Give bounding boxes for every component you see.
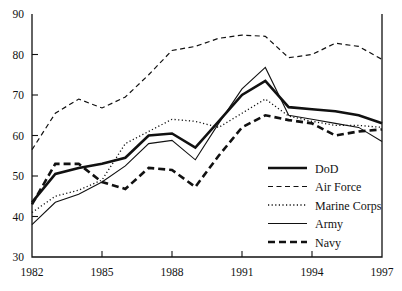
line-chart: 30405060708090 198219851988199119941997 … [0,0,402,291]
y-axis-tick-labels: 30405060708090 [13,8,25,263]
x-tick-label: 1982 [21,266,44,278]
legend-label-navy: Navy [315,236,341,250]
legend-label-air-force: Air Force [315,180,361,194]
y-tick-label: 50 [13,170,25,182]
x-tick-label: 1994 [301,266,324,278]
y-tick-label: 70 [13,89,25,101]
chart-legend: DoDAir ForceMarine CorpsArmyNavy [268,162,382,250]
y-tick-label: 90 [13,8,25,20]
x-axis-tick-labels: 198219851988199119941997 [21,266,394,278]
chart-figure: 30405060708090 198219851988199119941997 … [0,0,402,291]
y-tick-label: 30 [13,251,25,263]
x-tick-label: 1991 [231,266,254,278]
y-tick-label: 80 [13,49,25,61]
legend-label-army: Army [315,217,343,231]
y-axis-ticks [32,55,38,217]
data-series-group [32,35,382,225]
series-line-marine-corps [32,99,382,212]
y-tick-label: 40 [13,211,25,223]
x-tick-label: 1985 [91,266,114,278]
x-tick-label: 1997 [371,266,394,278]
x-tick-label: 1988 [161,266,184,278]
legend-label-marine-corps: Marine Corps [315,199,382,213]
y-tick-label: 60 [13,130,25,142]
x-axis-ticks [102,251,312,257]
legend-label-dod: DoD [315,162,339,176]
